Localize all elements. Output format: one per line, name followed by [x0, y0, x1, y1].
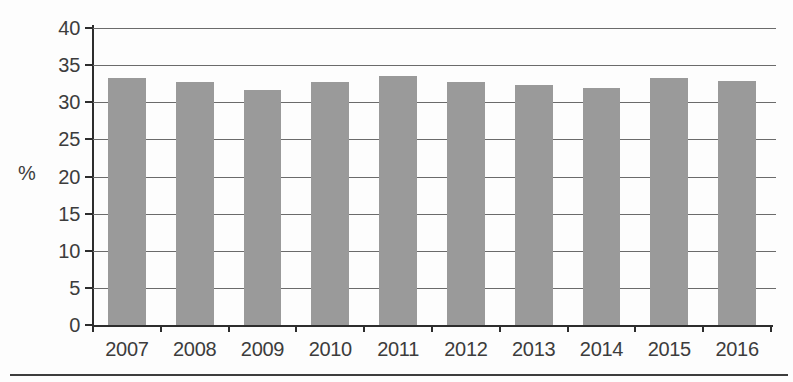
x-axis-category-label-2010: 2010 — [309, 339, 352, 359]
y-axis-tick-15 — [85, 213, 93, 215]
x-axis-tick-8 — [634, 325, 636, 332]
y-axis-tick-35 — [85, 64, 93, 66]
x-axis-category-label-2009: 2009 — [241, 339, 284, 359]
x-axis-tick-0 — [92, 325, 94, 332]
y-axis-tick-label-0: 0 — [69, 315, 80, 335]
bar-2013 — [515, 85, 553, 325]
y-axis-tick-label-35: 35 — [58, 55, 80, 75]
x-axis-tick-2 — [228, 325, 230, 332]
y-axis-tick-label-10: 10 — [58, 241, 80, 261]
bar-2016 — [718, 81, 756, 325]
bar-chart-figure: % 05101520253035402007200820092010201120… — [0, 0, 793, 382]
x-axis-category-label-2012: 2012 — [444, 339, 487, 359]
x-axis-category-label-2008: 2008 — [173, 339, 216, 359]
bottom-separator — [10, 374, 788, 376]
x-axis-category-label-2007: 2007 — [105, 339, 148, 359]
y-axis-tick-40 — [85, 27, 93, 29]
y-axis-tick-label-5: 5 — [69, 278, 80, 298]
bar-2014 — [583, 88, 621, 325]
y-axis-tick-30 — [85, 101, 93, 103]
y-axis-tick-label-25: 25 — [58, 129, 80, 149]
y-axis-tick-10 — [85, 250, 93, 252]
x-axis-tick-7 — [567, 325, 569, 332]
x-axis-category-label-2011: 2011 — [377, 339, 419, 359]
gridline-40 — [93, 28, 776, 29]
y-axis-title: % — [18, 162, 36, 185]
x-axis-tick-10 — [770, 325, 772, 332]
x-axis-tick-1 — [160, 325, 162, 332]
x-axis-category-label-2013: 2013 — [512, 339, 555, 359]
x-axis-tick-9 — [702, 325, 704, 332]
bar-2009 — [244, 90, 282, 325]
x-axis-tick-4 — [363, 325, 365, 332]
bar-2012 — [447, 82, 485, 325]
x-axis-category-label-2016: 2016 — [715, 339, 758, 359]
bar-2008 — [176, 82, 214, 325]
y-axis-tick-label-30: 30 — [58, 92, 80, 112]
y-axis-tick-label-40: 40 — [58, 18, 80, 38]
bar-2007 — [108, 78, 146, 325]
gridline-35 — [93, 65, 776, 66]
y-axis-tick-25 — [85, 138, 93, 140]
bar-2010 — [311, 82, 349, 325]
y-axis-tick-20 — [85, 176, 93, 178]
y-axis-tick-5 — [85, 287, 93, 289]
x-axis-category-label-2014: 2014 — [580, 339, 623, 359]
bar-2015 — [650, 78, 688, 325]
x-axis-tick-3 — [295, 325, 297, 332]
x-axis-category-label-2015: 2015 — [648, 339, 691, 359]
plot-area: 0510152025303540200720082009201020112012… — [93, 28, 771, 325]
x-axis-tick-5 — [431, 325, 433, 332]
x-axis-tick-6 — [499, 325, 501, 332]
y-axis-tick-label-15: 15 — [58, 204, 80, 224]
bar-2011 — [379, 76, 417, 325]
y-axis-tick-label-20: 20 — [58, 167, 80, 187]
